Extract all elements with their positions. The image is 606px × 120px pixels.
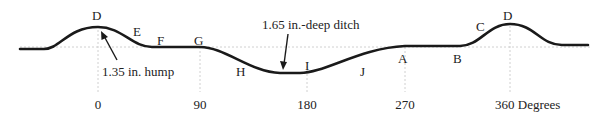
axis-tick-270: 270 <box>395 97 415 112</box>
axis-tick-360-degrees: 360 Degrees <box>495 97 560 112</box>
ditch-arrow <box>280 34 288 70</box>
point-label-h: H <box>236 64 245 79</box>
hump-annotation: 1.35 in. hump <box>102 64 174 79</box>
ditch-annotation: 1.65 in.-deep ditch <box>262 17 360 32</box>
axis-tick-90: 90 <box>194 97 207 112</box>
point-label-j: J <box>360 64 365 79</box>
road-profile-diagram: D E F G H I J A B C D 1.35 in. hump 1.65… <box>0 0 606 120</box>
point-label-d-right: D <box>503 8 512 23</box>
point-label-c: C <box>476 19 485 34</box>
point-label-e: E <box>133 24 141 39</box>
point-label-i: I <box>305 58 309 73</box>
point-label-g: G <box>194 33 203 48</box>
axis-tick-180: 180 <box>297 97 317 112</box>
point-label-d-left: D <box>92 8 101 23</box>
point-label-b: B <box>453 51 462 66</box>
hump-arrow <box>101 31 117 60</box>
point-label-f: F <box>157 33 164 48</box>
point-label-a: A <box>398 51 408 66</box>
axis-tick-0: 0 <box>95 97 102 112</box>
